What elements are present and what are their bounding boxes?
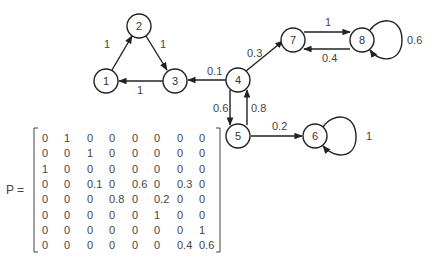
matrix-cell: 0.6	[132, 178, 147, 190]
edges: 1 1 1 0.1 0.6 0.3 0.8 0.2 1 1 0.4 0.6	[104, 16, 422, 155]
edge-label-5-to-6: 0.2	[272, 120, 287, 132]
node-1: 1	[94, 69, 118, 93]
matrix-cell: 1	[154, 209, 160, 221]
matrix-cell: 0	[199, 178, 205, 190]
matrix-cell: 0	[64, 178, 70, 190]
matrix-cell: 0	[109, 132, 115, 144]
matrix-cell: 1	[87, 147, 93, 159]
node-6: 6	[303, 124, 327, 148]
matrix-cell: 0	[109, 163, 115, 175]
matrix-cell: 0	[154, 239, 160, 251]
edge-label-4-to-5: 0.6	[213, 102, 228, 114]
matrix-cell: 1	[199, 224, 205, 236]
matrix-cell: 0	[64, 224, 70, 236]
edge-label-3-to-1: 1	[137, 84, 143, 96]
matrix-cell: 0	[199, 193, 205, 205]
edge-label-4-to-3: 0.1	[207, 65, 222, 77]
node-7: 7	[281, 28, 305, 52]
matrix-cell: 0.8	[109, 193, 124, 205]
matrix-cell: 0	[177, 209, 183, 221]
edge-6-self-loop	[323, 117, 356, 155]
matrix-cell: 0	[109, 147, 115, 159]
edge-label-8-to-7: 0.4	[322, 52, 337, 64]
edge-label-2-to-3: 1	[160, 38, 166, 50]
matrix-cells: 010000000010000010000000000.100.600.3000…	[42, 132, 214, 251]
matrix-cell: 0	[154, 132, 160, 144]
node-8: 8	[350, 28, 374, 52]
right-bracket	[216, 128, 220, 252]
node-label: 1	[103, 75, 109, 87]
matrix-cell: 0	[42, 209, 48, 221]
node-label: 5	[235, 130, 241, 142]
matrix-cell: 0	[199, 147, 205, 159]
edge-label-7-to-8: 1	[325, 16, 331, 28]
matrix-label: P =	[6, 183, 24, 197]
node-label: 2	[136, 20, 142, 32]
matrix-cell: 0.4	[177, 239, 192, 251]
matrix-cell: 0	[199, 209, 205, 221]
matrix-cell: 0	[42, 193, 48, 205]
matrix-cell: 0	[42, 224, 48, 236]
matrix-cell: 1	[42, 163, 48, 175]
left-bracket	[34, 128, 38, 252]
matrix-cell: 0	[64, 147, 70, 159]
node-label: 6	[312, 130, 318, 142]
matrix-cell: 0.1	[87, 178, 102, 190]
edge-1-to-2	[112, 36, 132, 70]
matrix-cell: 0	[42, 239, 48, 251]
matrix-cell: 0	[109, 224, 115, 236]
matrix-cell: 0	[177, 147, 183, 159]
matrix-cell: 0	[42, 178, 48, 190]
matrix-cell: 0	[132, 193, 138, 205]
edge-label-6-self-loop: 1	[366, 130, 372, 142]
edge-label-4-to-7: 0.3	[247, 47, 262, 59]
matrix-cell: 0	[199, 132, 205, 144]
transition-matrix: P = 010000000010000010000000000.100.600.…	[6, 128, 220, 252]
matrix-cell: 0.6	[199, 239, 214, 251]
matrix-cell: 0	[87, 193, 93, 205]
matrix-cell: 0.2	[154, 193, 169, 205]
node-label: 8	[359, 34, 365, 46]
node-5: 5	[226, 124, 250, 148]
matrix-cell: 0.3	[177, 178, 192, 190]
node-3: 3	[163, 69, 187, 93]
matrix-cell: 0	[177, 193, 183, 205]
matrix-cell: 0	[154, 178, 160, 190]
matrix-cell: 0	[132, 224, 138, 236]
matrix-cell: 0	[64, 193, 70, 205]
edge-label-8-self-loop: 0.6	[407, 34, 422, 46]
matrix-cell: 0	[64, 209, 70, 221]
matrix-cell: 0	[132, 132, 138, 144]
matrix-cell: 0	[199, 163, 205, 175]
matrix-cell: 0	[109, 178, 115, 190]
matrix-cell: 0	[87, 132, 93, 144]
matrix-cell: 0	[132, 209, 138, 221]
matrix-cell: 0	[109, 209, 115, 221]
node-label: 3	[172, 75, 178, 87]
matrix-cell: 0	[87, 209, 93, 221]
matrix-cell: 0	[64, 163, 70, 175]
matrix-cell: 0	[177, 132, 183, 144]
node-4: 4	[226, 68, 250, 92]
edge-label-1-to-2: 1	[104, 38, 110, 50]
node-2: 2	[127, 14, 151, 38]
matrix-cell: 0	[87, 239, 93, 251]
matrix-cell: 0	[87, 224, 93, 236]
edge-label-5-to-4: 0.8	[251, 102, 266, 114]
matrix-cell: 0	[177, 163, 183, 175]
edge-8-self-loop	[370, 21, 402, 59]
matrix-cell: 0	[154, 163, 160, 175]
matrix-cell: 0	[177, 224, 183, 236]
node-label: 4	[235, 74, 241, 86]
matrix-cell: 0	[64, 239, 70, 251]
matrix-cell: 0	[132, 163, 138, 175]
matrix-cell: 0	[154, 224, 160, 236]
markov-chain-diagram: 1 1 1 0.1 0.6 0.3 0.8 0.2 1 1 0.4 0.6	[0, 0, 433, 267]
matrix-cell: 0	[42, 147, 48, 159]
matrix-cell: 0	[132, 239, 138, 251]
matrix-cell: 0	[154, 147, 160, 159]
matrix-cell: 0	[132, 147, 138, 159]
matrix-cell: 1	[64, 132, 70, 144]
matrix-cell: 0	[109, 239, 115, 251]
node-label: 7	[290, 34, 296, 46]
